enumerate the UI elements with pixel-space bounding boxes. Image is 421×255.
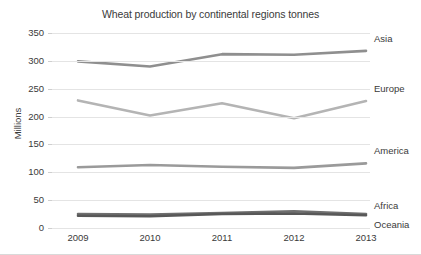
gridline (52, 89, 370, 90)
y-axis-tick-label: 50 (18, 195, 44, 205)
gridline (52, 144, 370, 145)
gridline (52, 200, 370, 201)
series-label-asia: Asia (374, 33, 392, 44)
y-axis-tick-mark (48, 200, 52, 201)
chart-title: Wheat production by continental regions … (0, 8, 421, 20)
y-axis-tick-label: 150 (18, 139, 44, 149)
series-label-africa: Africa (374, 200, 398, 211)
x-axis-tick-label: 2013 (344, 232, 388, 243)
x-axis-tick-label: 2011 (200, 232, 244, 243)
y-axis-tick-mark (48, 89, 52, 90)
series-lines (52, 33, 370, 228)
series-label-america: America (374, 145, 409, 156)
series-line-asia (78, 51, 366, 67)
y-axis-tick-label: 300 (18, 56, 44, 66)
gridline (52, 61, 370, 62)
series-line-america (78, 163, 366, 167)
wheat-production-line-chart: Wheat production by continental regions … (0, 0, 421, 255)
y-axis-tick-label: 100 (18, 167, 44, 177)
y-axis-tick-mark (48, 228, 52, 229)
x-axis-tick-label: 2012 (272, 232, 316, 243)
gridline (52, 172, 370, 173)
gridline (52, 228, 370, 229)
y-axis-tick-label: 350 (18, 28, 44, 38)
series-line-europe (78, 100, 366, 118)
y-axis-tick-mark (48, 61, 52, 62)
y-axis-tick-label: 200 (18, 112, 44, 122)
y-axis-tick-mark (48, 144, 52, 145)
y-axis-tick-mark (48, 117, 52, 118)
y-axis-tick-labels: 050100150200250300350 (18, 0, 44, 255)
series-label-oceania: Oceania (374, 219, 409, 230)
y-axis-tick-label: 0 (18, 223, 44, 233)
x-axis-tick-labels: 20092010201120122013 (52, 232, 370, 246)
x-axis-tick-label: 2009 (56, 232, 100, 243)
y-axis-tick-mark (48, 33, 52, 34)
x-axis-tick-label: 2010 (128, 232, 172, 243)
gridline (52, 33, 370, 34)
y-axis-tick-mark (48, 172, 52, 173)
gridline (52, 117, 370, 118)
series-label-europe: Europe (374, 83, 405, 94)
y-axis-tick-label: 250 (18, 84, 44, 94)
plot-area (52, 33, 370, 228)
